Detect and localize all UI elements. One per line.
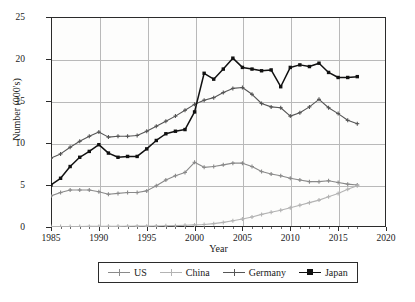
x-tick-label: 1985 (28, 233, 74, 243)
x-minor-tick-mark (309, 227, 310, 229)
x-minor-tick-mark (281, 227, 282, 229)
legend-label: US (134, 268, 147, 278)
legend-swatch-icon (223, 268, 245, 277)
y-tick-label: 0 (0, 222, 25, 232)
x-minor-tick-mark (357, 227, 358, 229)
x-minor-tick-mark (214, 227, 215, 229)
x-minor-tick-mark (329, 227, 330, 229)
gridline-vertical (196, 18, 197, 226)
x-minor-tick-mark (128, 227, 129, 229)
gridline-horizontal (52, 102, 385, 103)
legend-swatch-icon (299, 268, 321, 277)
x-tick-mark (147, 227, 148, 231)
x-minor-tick-mark (89, 227, 90, 229)
gridline-horizontal (52, 60, 385, 61)
legend-entry-china[interactable]: China (160, 268, 210, 278)
x-minor-tick-mark (252, 227, 253, 229)
x-tick-mark (51, 227, 52, 231)
x-tick-mark (242, 227, 243, 231)
gridline-horizontal (52, 186, 385, 187)
chart-legend: USChinaGermanyJapan (98, 262, 358, 283)
y-axis-title: Number (000's) (11, 50, 22, 170)
y-tick-label: 25 (0, 12, 25, 22)
x-tick-mark (386, 227, 387, 231)
line-chart: 0510152025 19851990199520002005201020152… (0, 0, 415, 302)
gridline-vertical (243, 18, 244, 226)
x-minor-tick-mark (61, 227, 62, 229)
x-minor-tick-mark (108, 227, 109, 229)
x-minor-tick-mark (137, 227, 138, 229)
x-minor-tick-mark (233, 227, 234, 229)
x-tick-label: 1995 (124, 233, 170, 243)
x-minor-tick-mark (166, 227, 167, 229)
x-minor-tick-mark (271, 227, 272, 229)
x-minor-tick-mark (223, 227, 224, 229)
x-minor-tick-mark (175, 227, 176, 229)
gridline-vertical (339, 18, 340, 226)
x-minor-tick-mark (262, 227, 263, 229)
plot-area (51, 17, 386, 227)
gridline-vertical (148, 18, 149, 226)
legend-entry-us[interactable]: US (108, 268, 147, 278)
legend-label: China (186, 268, 210, 278)
gridline-horizontal (52, 144, 385, 145)
x-minor-tick-mark (348, 227, 349, 229)
legend-label: Germany (249, 268, 286, 278)
x-minor-tick-mark (118, 227, 119, 229)
legend-label: Japan (325, 268, 348, 278)
x-tick-label: 2010 (267, 233, 313, 243)
legend-entry-germany[interactable]: Germany (223, 268, 286, 278)
x-tick-label: 2015 (315, 233, 361, 243)
x-tick-mark (290, 227, 291, 231)
x-minor-tick-mark (185, 227, 186, 229)
y-tick-label: 5 (0, 180, 25, 190)
x-tick-label: 2005 (219, 233, 265, 243)
x-tick-label: 2020 (363, 233, 409, 243)
gridline-vertical (100, 18, 101, 226)
x-minor-tick-mark (156, 227, 157, 229)
gridline-vertical (291, 18, 292, 226)
x-tick-mark (99, 227, 100, 231)
x-tick-mark (195, 227, 196, 231)
x-tick-mark (338, 227, 339, 231)
x-minor-tick-mark (319, 227, 320, 229)
x-minor-tick-mark (70, 227, 71, 229)
legend-swatch-icon (108, 268, 130, 277)
x-minor-tick-mark (204, 227, 205, 229)
x-tick-label: 1990 (76, 233, 122, 243)
x-minor-tick-mark (300, 227, 301, 229)
x-axis-title: Year (51, 243, 386, 254)
x-tick-label: 2000 (172, 233, 218, 243)
legend-swatch-icon (160, 268, 182, 277)
x-minor-tick-mark (80, 227, 81, 229)
legend-entry-japan[interactable]: Japan (299, 268, 348, 278)
